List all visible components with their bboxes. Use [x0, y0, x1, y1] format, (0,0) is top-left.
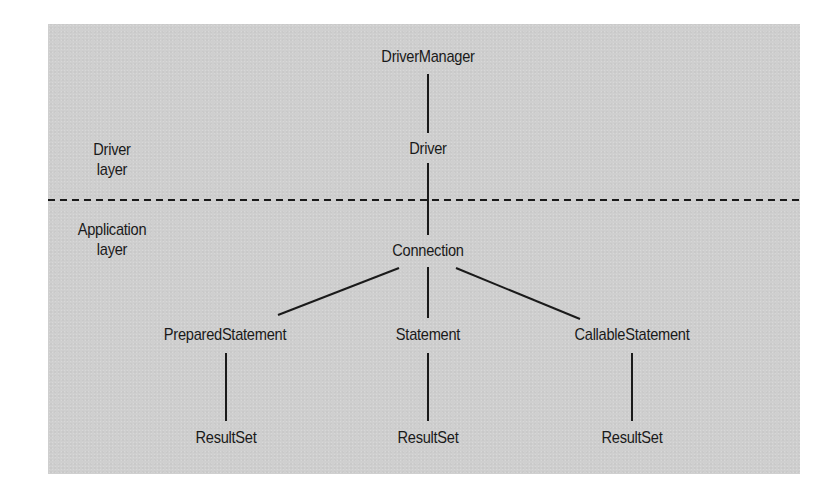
application-layer-line1: Application — [78, 220, 147, 240]
node-drivermanager: DriverManager — [374, 47, 483, 67]
driver-layer-label: Driver layer — [90, 140, 134, 180]
node-connection: Connection — [386, 241, 469, 261]
edge-connection-callablestatement — [456, 268, 580, 319]
edge-connection-preparedstatement — [278, 268, 399, 315]
node-driver: Driver — [406, 139, 450, 159]
application-layer-line2: layer — [78, 240, 147, 260]
node-resultset-prepared: ResultSet — [190, 428, 261, 448]
node-statement: Statement — [391, 325, 466, 345]
driver-layer-line2: layer — [93, 160, 130, 180]
node-callablestatement: CallableStatement — [565, 325, 699, 345]
node-resultset-callable: ResultSet — [596, 428, 667, 448]
node-resultset-statement: ResultSet — [392, 428, 463, 448]
node-preparedstatement: PreparedStatement — [154, 325, 296, 345]
driver-layer-line1: Driver — [93, 140, 130, 160]
application-layer-label: Application layer — [72, 220, 152, 260]
